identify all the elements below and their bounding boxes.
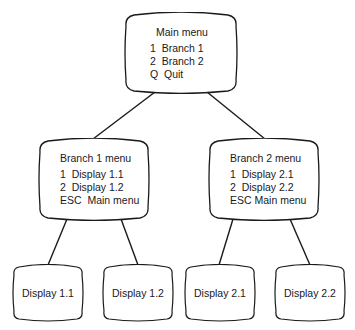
branch1-option-2: 2 Display 1.2 bbox=[60, 181, 124, 194]
branch1-option-esc: ESC Main menu bbox=[60, 194, 139, 207]
display-1-2-screen: Display 1.2 bbox=[102, 264, 174, 322]
display-2-1-label: Display 2.1 bbox=[184, 287, 256, 299]
display-1-1-label: Display 1.1 bbox=[12, 287, 84, 299]
edge-branch2-display21 bbox=[219, 219, 233, 265]
edge-branch2-display22 bbox=[290, 219, 310, 265]
main-menu-title: Main menu bbox=[150, 26, 208, 38]
edge-branch1-display12 bbox=[121, 219, 138, 265]
display-1-2-label: Display 1.2 bbox=[102, 287, 174, 299]
branch2-menu-title: Branch 2 menu bbox=[230, 152, 301, 164]
display-2-2-label: Display 2.2 bbox=[274, 287, 346, 299]
display-2-1-screen: Display 2.1 bbox=[184, 264, 256, 322]
display-1-1-screen: Display 1.1 bbox=[12, 264, 84, 322]
main-menu-option-quit: Q Quit bbox=[150, 68, 183, 81]
edge-branch1-display11 bbox=[48, 219, 67, 265]
display-2-2-screen: Display 2.2 bbox=[274, 264, 346, 322]
branch2-menu-screen: Branch 2 menu 1 Display 2.1 2 Display 2.… bbox=[208, 138, 320, 221]
branch2-option-esc: ESC Main menu bbox=[230, 194, 306, 207]
main-menu-screen: Main menu 1 Branch 1 2 Branch 2 Q Quit bbox=[124, 12, 238, 94]
branch1-menu-screen: Branch 1 menu 1 Display 1.1 2 Display 1.… bbox=[38, 138, 150, 221]
branch2-option-1: 1 Display 2.1 bbox=[230, 168, 294, 181]
edge-main-branch2 bbox=[207, 92, 265, 139]
main-menu-option-2: 2 Branch 2 bbox=[150, 55, 204, 68]
branch1-option-1: 1 Display 1.1 bbox=[60, 168, 124, 181]
edge-main-branch1 bbox=[93, 92, 155, 139]
branch2-option-2: 2 Display 2.2 bbox=[230, 181, 294, 194]
main-menu-option-1: 1 Branch 1 bbox=[150, 42, 204, 55]
branch1-menu-title: Branch 1 menu bbox=[60, 152, 131, 164]
